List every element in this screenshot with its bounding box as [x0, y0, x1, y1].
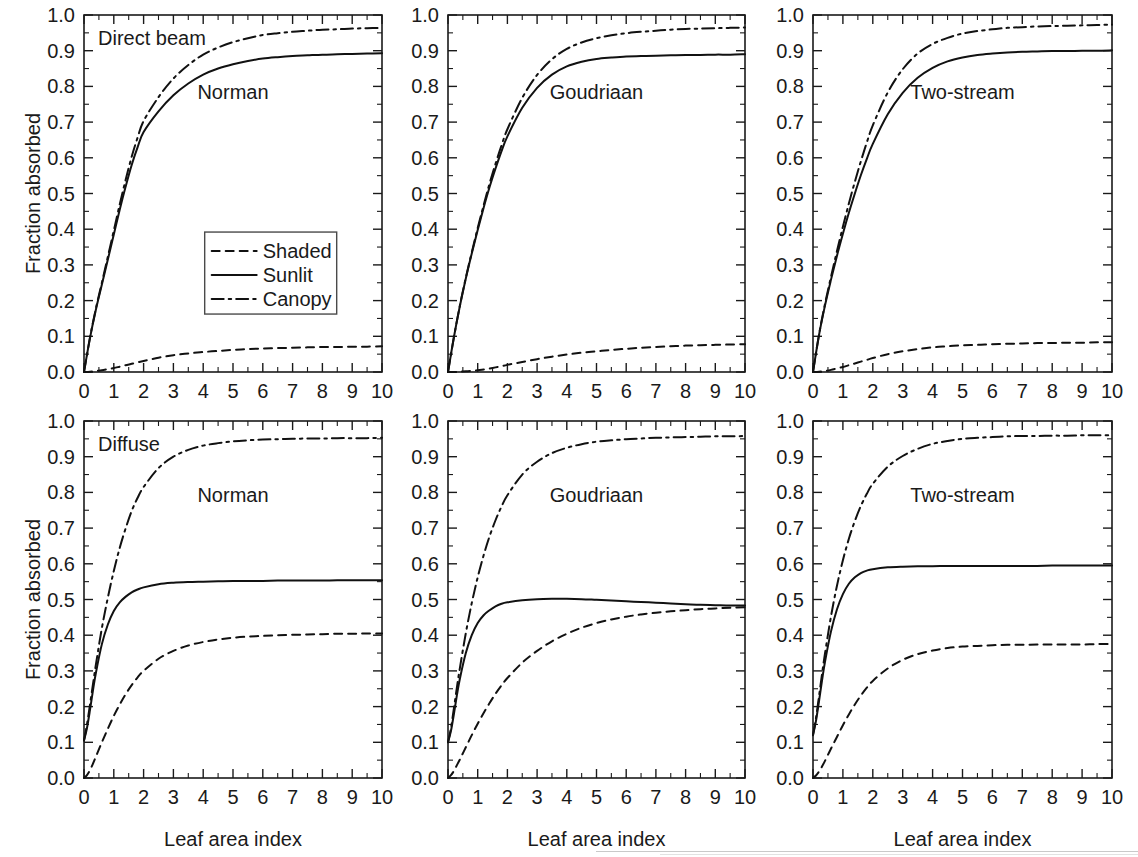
x-tick-label: 0	[442, 380, 453, 402]
model-label: Two-stream	[910, 484, 1014, 506]
y-tick-label: 0.1	[776, 325, 804, 347]
y-tick-label: 0.1	[411, 325, 439, 347]
x-tick-label: 5	[591, 380, 602, 402]
y-tick-label: 0.7	[411, 111, 439, 133]
x-tick-label: 3	[168, 786, 179, 808]
model-label: Two-stream	[910, 81, 1014, 103]
x-tick-label: 2	[138, 786, 149, 808]
y-tick-label: 0.8	[411, 75, 439, 97]
y-tick-label: 0.6	[411, 553, 439, 575]
chart-panel-bottom-center: 0.00.10.20.30.40.50.60.70.80.91.00123456…	[386, 421, 747, 820]
y-tick-label: 0.9	[776, 446, 804, 468]
y-tick-label: 1.0	[776, 4, 804, 26]
x-tick-label: 5	[591, 786, 602, 808]
y-tick-label: 0.3	[47, 660, 75, 682]
chart-panel-top-right: 0.00.10.20.30.40.50.60.70.80.91.00123456…	[751, 15, 1114, 414]
y-tick-label: 0.4	[411, 624, 439, 646]
x-tick-label: 10	[1101, 786, 1123, 808]
condition-label: Direct beam	[98, 27, 206, 49]
x-tick-label: 4	[198, 786, 209, 808]
y-tick-label: 0.1	[47, 325, 75, 347]
y-tick-label: 1.0	[411, 410, 439, 432]
x-tick-label: 9	[1077, 786, 1088, 808]
y-tick-label: 0.2	[411, 290, 439, 312]
y-tick-label: 0.2	[411, 696, 439, 718]
x-tick-label: 8	[680, 786, 691, 808]
x-tick-label: 7	[287, 380, 298, 402]
curve-sunlit	[448, 599, 745, 743]
y-tick-label: 0.4	[776, 218, 804, 240]
model-label: Norman	[197, 484, 268, 506]
y-tick-label: 0.0	[47, 361, 75, 383]
x-tick-label: 2	[502, 786, 513, 808]
curve-shaded	[84, 633, 382, 778]
y-tick-label: 1.0	[47, 4, 75, 26]
y-tick-label: 0.2	[47, 696, 75, 718]
y-tick-label: 0.3	[776, 254, 804, 276]
x-tick-label: 9	[1077, 380, 1088, 402]
x-tick-label: 7	[650, 786, 661, 808]
y-tick-label: 0.9	[47, 40, 75, 62]
x-tick-label: 7	[650, 380, 661, 402]
legend-label-canopy: Canopy	[263, 288, 332, 310]
y-tick-label: 0.0	[411, 767, 439, 789]
x-tick-label: 7	[1017, 380, 1028, 402]
y-tick-label: 1.0	[47, 410, 75, 432]
x-tick-label: 1	[472, 380, 483, 402]
y-tick-label: 0.4	[47, 624, 75, 646]
y-tick-label: 0.5	[776, 183, 804, 205]
curve-canopy	[84, 28, 382, 372]
y-tick-label: 0.5	[47, 183, 75, 205]
x-tick-label: 1	[472, 786, 483, 808]
y-tick-label: 0.8	[47, 481, 75, 503]
x-tick-label: 7	[287, 786, 298, 808]
x-axis-title: Leaf area index	[528, 828, 666, 850]
x-tick-label: 4	[561, 786, 572, 808]
x-tick-label: 5	[957, 380, 968, 402]
legend-label-shaded: Shaded	[263, 240, 332, 262]
x-tick-label: 6	[257, 786, 268, 808]
x-tick-label: 4	[927, 380, 938, 402]
y-tick-label: 0.5	[776, 589, 804, 611]
y-tick-label: 0.7	[47, 111, 75, 133]
y-tick-label: 0.7	[411, 517, 439, 539]
y-tick-label: 0.7	[47, 517, 75, 539]
x-tick-label: 0	[78, 786, 89, 808]
y-tick-label: 0.8	[411, 481, 439, 503]
x-tick-label: 9	[347, 786, 358, 808]
x-tick-label: 10	[1101, 380, 1123, 402]
y-axis-title: Fraction absorbed	[22, 519, 44, 680]
y-tick-label: 1.0	[776, 410, 804, 432]
x-tick-label: 2	[138, 380, 149, 402]
x-tick-label: 4	[198, 380, 209, 402]
x-tick-label: 2	[502, 380, 513, 402]
y-tick-label: 0.9	[411, 446, 439, 468]
chart-panel-bottom-right: 0.00.10.20.30.40.50.60.70.80.91.00123456…	[751, 421, 1114, 820]
legend: ShadedSunlitCanopy	[205, 232, 337, 314]
y-tick-label: 0.5	[47, 589, 75, 611]
curve-canopy	[448, 28, 745, 373]
y-tick-label: 0.6	[776, 147, 804, 169]
x-tick-label: 0	[78, 380, 89, 402]
x-tick-label: 1	[108, 786, 119, 808]
y-tick-label: 0.4	[776, 624, 804, 646]
y-tick-label: 0.3	[411, 660, 439, 682]
curve-shaded	[448, 607, 745, 778]
y-tick-label: 0.9	[411, 40, 439, 62]
y-tick-label: 0.7	[776, 111, 804, 133]
x-tick-label: 0	[442, 786, 453, 808]
condition-label: Diffuse	[98, 433, 160, 455]
y-tick-label: 0.0	[776, 767, 804, 789]
x-tick-label: 9	[710, 380, 721, 402]
y-tick-label: 1.0	[411, 4, 439, 26]
curve-canopy	[813, 435, 1112, 735]
x-tick-label: 6	[621, 786, 632, 808]
curve-shaded	[813, 644, 1112, 778]
y-tick-label: 0.8	[776, 75, 804, 97]
x-tick-label: 5	[227, 786, 238, 808]
x-axis-title: Leaf area index	[164, 828, 302, 850]
x-tick-label: 8	[317, 380, 328, 402]
y-tick-label: 0.9	[776, 40, 804, 62]
x-tick-label: 3	[532, 380, 543, 402]
y-tick-label: 0.0	[47, 767, 75, 789]
